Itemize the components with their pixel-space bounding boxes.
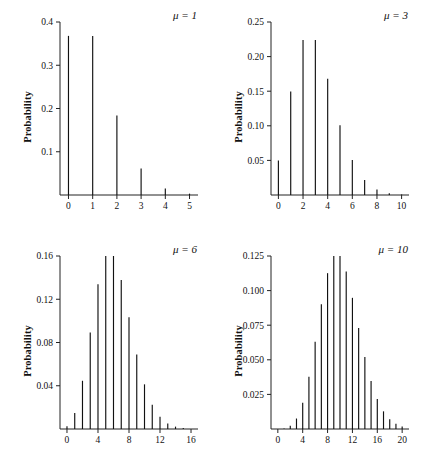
x-tick-label: 8 (325, 435, 330, 445)
y-tick-label: 0.15 (247, 87, 264, 97)
x-tick-label: 12 (155, 435, 165, 445)
y-tick-label: 0.075 (243, 321, 265, 331)
x-tick-label: 5 (187, 201, 192, 211)
x-tick-label: 12 (348, 435, 358, 445)
x-tick-label: 20 (397, 435, 407, 445)
plot-area: 0.050.100.150.200.250246810 (211, 0, 422, 234)
panel-mu-1: Probability μ = 1 0.10.20.30.4012345 (0, 0, 211, 234)
plot-area: 0.040.080.120.160481216 (0, 234, 211, 468)
y-tick-label: 0.1 (41, 147, 53, 157)
panel-mu-10: Probability μ = 10 0.0250.0500.0750.1000… (211, 234, 422, 468)
y-tick-label: 0.4 (41, 17, 53, 27)
x-tick-label: 6 (350, 201, 355, 211)
x-tick-label: 4 (300, 435, 305, 445)
y-tick-label: 0.100 (243, 286, 265, 296)
y-tick-label: 0.2 (41, 104, 53, 114)
y-tick-label: 0.08 (36, 338, 53, 348)
x-tick-label: 10 (397, 201, 407, 211)
x-tick-label: 0 (275, 435, 280, 445)
y-tick-label: 0.25 (247, 17, 264, 27)
x-tick-label: 3 (139, 201, 144, 211)
plot-area: 0.10.20.30.4012345 (0, 0, 211, 234)
y-tick-label: 0.3 (41, 61, 53, 71)
x-tick-label: 1 (90, 201, 95, 211)
x-tick-label: 8 (127, 435, 132, 445)
x-tick-label: 2 (115, 201, 120, 211)
x-tick-label: 0 (66, 201, 71, 211)
x-tick-label: 16 (186, 435, 196, 445)
x-tick-label: 4 (96, 435, 101, 445)
x-tick-label: 16 (373, 435, 383, 445)
x-tick-label: 0 (65, 435, 70, 445)
x-tick-label: 8 (375, 201, 380, 211)
x-tick-label: 0 (276, 201, 281, 211)
plot-area: 0.0250.0500.0750.1000.125048121620 (211, 234, 422, 468)
y-tick-label: 0.125 (243, 251, 265, 261)
y-tick-label: 0.12 (36, 295, 53, 305)
poisson-pmf-figure: Probability μ = 1 0.10.20.30.4012345 Pro… (0, 0, 422, 468)
y-tick-label: 0.04 (36, 381, 53, 391)
y-tick-label: 0.20 (247, 52, 264, 62)
panel-mu-6: Probability μ = 6 0.040.080.120.16048121… (0, 234, 211, 468)
y-tick-label: 0.050 (243, 355, 265, 365)
panel-mu-3: Probability μ = 3 0.050.100.150.200.2502… (211, 0, 422, 234)
y-tick-label: 0.05 (247, 156, 264, 166)
y-tick-label: 0.16 (36, 251, 53, 261)
x-tick-label: 4 (325, 201, 330, 211)
y-tick-label: 0.025 (243, 390, 265, 400)
x-tick-label: 2 (301, 201, 306, 211)
x-tick-label: 4 (163, 201, 168, 211)
y-tick-label: 0.10 (247, 121, 264, 131)
